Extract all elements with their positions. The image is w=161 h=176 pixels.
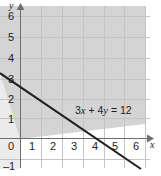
x-tick-4: 4: [92, 141, 98, 152]
x-tick-1: 1: [29, 141, 35, 152]
x-axis-label: x: [150, 140, 154, 150]
coordinate-graph-figure: y 6 5 4 3 2 1 0 –1 1 2 3 4 5 6 x 3x + 4y…: [0, 0, 161, 176]
equation-annotation: 3x + 4y = 12: [75, 105, 132, 117]
equation-plus-coefficient-y: + 4: [86, 104, 104, 116]
x-tick-3: 3: [71, 141, 77, 152]
y-tick-neg1: –1: [3, 161, 15, 172]
y-tick-4: 4: [8, 53, 14, 64]
x-tick-5: 5: [112, 141, 118, 152]
y-tick-5: 5: [8, 32, 14, 43]
y-tick-3: 3: [8, 74, 14, 85]
shaded-inequality-region: [0, 6, 145, 139]
equation-right-hand-side: = 12: [108, 104, 132, 116]
y-tick-2: 2: [8, 94, 14, 105]
y-tick-6: 6: [8, 11, 14, 22]
y-tick-0: 0: [8, 141, 14, 152]
y-tick-1: 1: [8, 114, 14, 125]
x-tick-2: 2: [50, 141, 56, 152]
x-tick-6: 6: [133, 141, 139, 152]
